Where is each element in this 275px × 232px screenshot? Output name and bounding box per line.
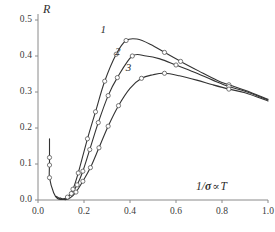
y-tick-label: 0.2	[10, 122, 32, 132]
data-point-marker	[115, 76, 119, 80]
curve-label-2: 2	[115, 45, 121, 57]
y-tick-label: 0.3	[10, 86, 32, 96]
data-point-marker	[93, 110, 97, 114]
data-point-marker	[69, 191, 73, 195]
curve-label-1: 1	[101, 23, 107, 35]
temperature-symbol: T	[221, 180, 227, 192]
data-point-marker	[106, 94, 110, 98]
data-point-marker	[116, 104, 120, 108]
axes	[35, 14, 268, 203]
data-point-marker	[47, 163, 51, 167]
curve-3	[60, 73, 268, 199]
x-axis-title: 1/σ∝T	[196, 180, 227, 193]
y-tick-label: 0.5	[10, 14, 32, 24]
y-tick-label: 0.4	[10, 50, 32, 60]
data-point-marker	[47, 176, 51, 180]
x-tick-label: 0.4	[117, 206, 143, 216]
plot-canvas	[0, 0, 275, 232]
data-point-marker	[96, 121, 100, 125]
curve-2	[56, 54, 268, 199]
data-point-marker	[76, 171, 80, 175]
proportional-symbol: ∝	[211, 180, 220, 192]
x-tick-label: 1.0	[255, 206, 275, 216]
x-tick-label: 0.8	[209, 206, 235, 216]
data-point-marker	[81, 179, 85, 183]
data-point-marker	[139, 76, 143, 80]
y-axis-title: R	[43, 2, 50, 17]
y-tick-label: 0.1	[10, 158, 32, 168]
chart-figure: 0.00.10.20.30.40.5 0.00.20.40.60.81.0 R …	[0, 0, 275, 232]
data-point-marker	[174, 63, 178, 67]
y-tick-label: 0.0	[10, 194, 32, 204]
x-tick-label: 0.0	[25, 206, 51, 216]
x-axis-title-text: 1/	[196, 180, 205, 192]
data-point-marker	[65, 195, 69, 199]
data-point-marker	[81, 169, 85, 173]
data-point-marker	[75, 183, 79, 187]
data-point-marker	[179, 59, 183, 63]
data-point-marker	[106, 124, 110, 128]
x-tick-label: 0.6	[163, 206, 189, 216]
curve-label-3: 3	[126, 61, 132, 73]
x-tick-label: 0.2	[71, 206, 97, 216]
curve-1	[49, 39, 268, 200]
data-point-marker	[88, 148, 92, 152]
data-point-marker	[162, 71, 166, 75]
data-point-marker	[88, 166, 92, 170]
data-point-marker	[162, 50, 166, 54]
data-point-marker	[130, 54, 134, 58]
data-point-marker	[47, 155, 51, 159]
data-point-marker	[103, 79, 107, 83]
data-point-marker	[97, 146, 101, 150]
data-point-marker	[85, 137, 89, 141]
data-point-marker	[124, 38, 128, 42]
data-point-markers	[47, 38, 231, 199]
data-point-marker	[74, 190, 78, 194]
curves	[49, 39, 268, 200]
data-point-marker	[227, 87, 231, 91]
